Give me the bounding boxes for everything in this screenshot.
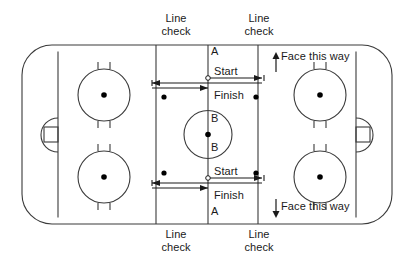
label-point-b-top: B — [211, 112, 218, 125]
neutral-dot-bottom-right — [253, 170, 258, 175]
arrow-right-icon — [200, 85, 208, 91]
faceoff-dots — [101, 92, 323, 180]
faceoff-dot-top-left — [101, 92, 107, 98]
neutral-dot-bottom-left — [161, 170, 166, 175]
label-start-bottom: Start — [214, 165, 238, 178]
faceoff-dot-bottom-right — [317, 174, 323, 180]
label-line-check-bottom-right: Line check — [231, 228, 287, 254]
label-line-check-top-left: Line check — [148, 12, 204, 38]
arrow-down-icon — [273, 211, 280, 218]
hockey-rink-diagram: Line check Line check Line check Line ch… — [0, 0, 414, 271]
face-direction-arrows — [273, 52, 280, 218]
label-point-a-top: A — [211, 45, 218, 58]
start-marker-top — [206, 76, 211, 81]
center-dot — [205, 132, 211, 138]
label-finish-bottom: Finish — [214, 189, 244, 202]
arrow-up-icon — [273, 52, 280, 59]
label-point-a-bottom: A — [211, 205, 218, 218]
label-face-this-way-bottom: Face this way — [281, 200, 350, 213]
goal-net-left — [44, 127, 58, 142]
rink-drawing — [0, 0, 414, 271]
label-point-b-bottom: B — [211, 141, 218, 154]
label-line-check-bottom-left: Line check — [148, 228, 204, 254]
label-start-top: Start — [214, 65, 238, 78]
start-marker-bottom — [206, 176, 211, 181]
neutral-dot-top-right — [253, 94, 258, 99]
goal-net-right — [356, 127, 370, 142]
label-line-check-top-right: Line check — [231, 12, 287, 38]
faceoff-dot-top-right — [317, 92, 323, 98]
label-face-this-way-top: Face this way — [281, 50, 350, 63]
arrow-right-icon — [200, 185, 208, 191]
faceoff-dot-bottom-left — [101, 174, 107, 180]
neutral-dot-top-left — [161, 94, 166, 99]
label-finish-top: Finish — [214, 89, 244, 102]
